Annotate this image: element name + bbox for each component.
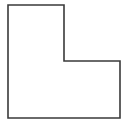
l-shape-polygon bbox=[8, 5, 120, 118]
diagram-canvas bbox=[0, 0, 128, 126]
